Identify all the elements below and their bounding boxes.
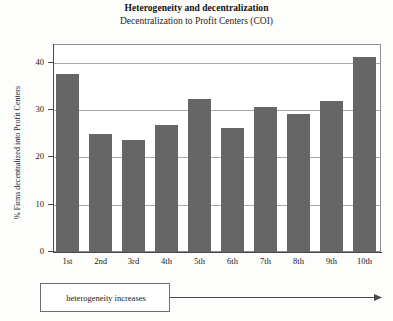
bar-10th xyxy=(353,57,376,252)
x-tick-label-4th: 4th xyxy=(150,256,184,266)
annotation-label: heterogeneity increases xyxy=(41,284,171,313)
annotation-arrow-icon xyxy=(170,293,382,302)
chart-title: Heterogeneity and decentralization xyxy=(0,3,393,13)
x-tick-label-2nd: 2nd xyxy=(84,256,118,266)
y-tick-mark xyxy=(48,251,53,252)
y-tick-label: 20 xyxy=(22,151,44,161)
bar-6th xyxy=(221,128,244,252)
y-tick-label: 40 xyxy=(22,57,44,67)
y-tick-mark xyxy=(48,62,53,63)
y-tick-mark xyxy=(48,156,53,157)
y-tick-label: 30 xyxy=(22,104,44,114)
x-tick-label-10th: 10th xyxy=(348,256,382,266)
y-axis-line xyxy=(53,44,54,253)
y-tick-label: 10 xyxy=(22,199,44,209)
bar-1st xyxy=(56,74,79,252)
x-tick-label-3rd: 3rd xyxy=(117,256,151,266)
y-tick-mark xyxy=(48,109,53,110)
annotation-box: heterogeneity increases xyxy=(40,283,170,312)
x-tick-label-6th: 6th xyxy=(216,256,250,266)
x-axis-line xyxy=(53,252,382,253)
x-tick-label-7th: 7th xyxy=(249,256,283,266)
bar-8th xyxy=(287,114,310,252)
y-axis-title: % Firms decentralized into Profit Center… xyxy=(13,73,22,233)
y-tick-label: 0 xyxy=(22,246,44,256)
chart-subtitle: Decentralization to Profit Centers (COI) xyxy=(0,16,393,26)
bars-layer xyxy=(53,44,381,252)
x-tick-label-9th: 9th xyxy=(315,256,349,266)
bar-7th xyxy=(254,107,277,252)
bar-5th xyxy=(188,99,211,252)
bar-3rd xyxy=(122,140,145,253)
bar-2nd xyxy=(89,134,112,252)
x-tick-label-1st: 1st xyxy=(51,256,85,266)
y-tick-mark xyxy=(48,204,53,205)
chart-figure: Heterogeneity and decentralization Decen… xyxy=(0,0,393,321)
x-tick-label-5th: 5th xyxy=(183,256,217,266)
bar-9th xyxy=(320,101,343,252)
x-tick-label-8th: 8th xyxy=(282,256,316,266)
bar-4th xyxy=(155,125,178,252)
